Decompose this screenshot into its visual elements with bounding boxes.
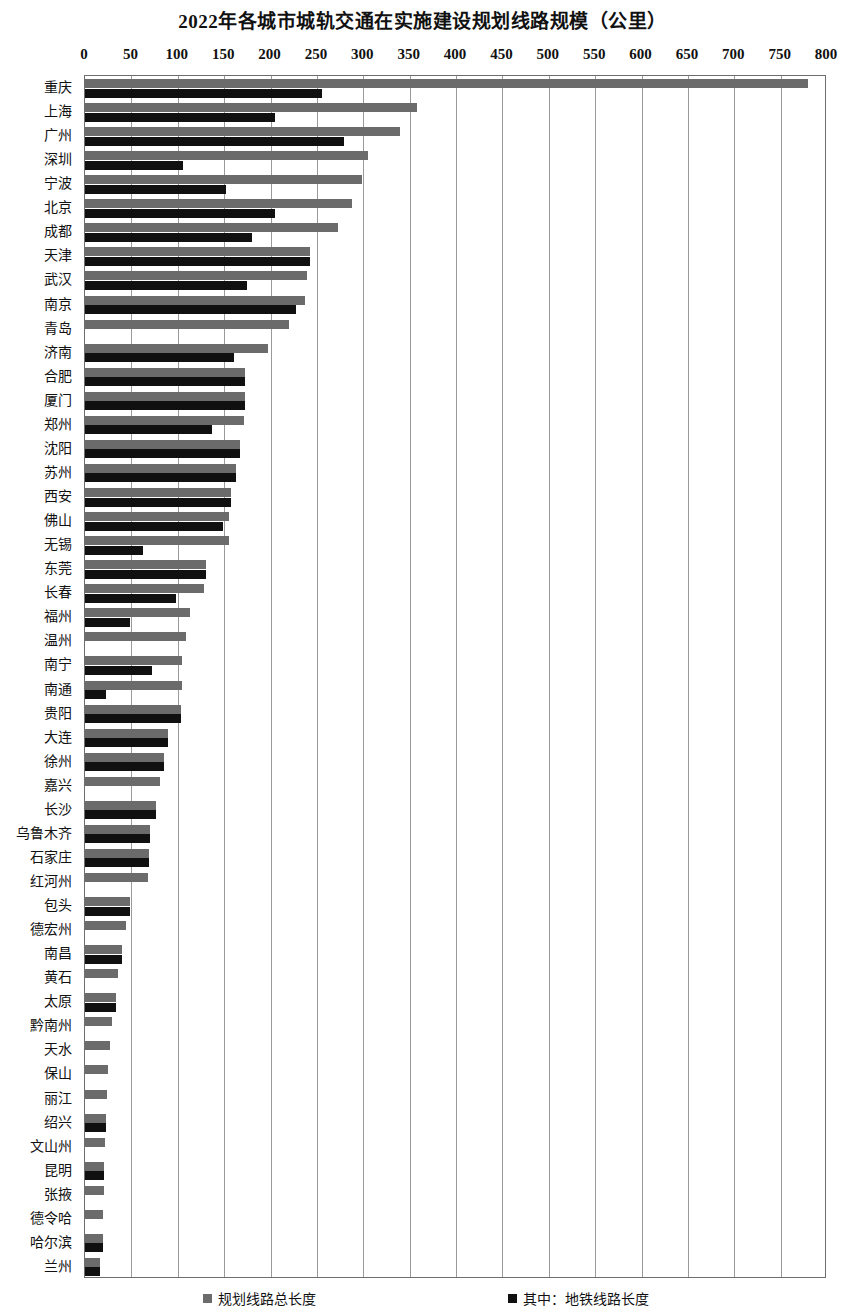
- bar-total-佛山: [85, 512, 229, 521]
- y-axis-label-厦门: 厦门: [44, 388, 72, 413]
- bar-total-太原: [85, 993, 116, 1002]
- bar-metro-福州: [85, 618, 130, 627]
- y-axis-label-太原: 太原: [44, 989, 72, 1014]
- bar-metro-天津: [85, 257, 310, 266]
- y-axis-label-昆明: 昆明: [44, 1158, 72, 1183]
- bar-metro-东莞: [85, 570, 206, 579]
- x-axis-tick-50: 50: [123, 46, 138, 63]
- bar-total-大连: [85, 729, 168, 738]
- legend-item-total[interactable]: 规划线路总长度: [203, 1288, 316, 1308]
- bar-total-广州: [85, 127, 400, 136]
- bar-metro-昆明: [85, 1171, 104, 1180]
- y-axis-label-徐州: 徐州: [44, 749, 72, 774]
- bar-metro-沈阳: [85, 449, 240, 458]
- y-axis-label-合肥: 合肥: [44, 364, 72, 389]
- bar-metro-苏州: [85, 473, 236, 482]
- x-axis-tick-450: 450: [490, 46, 513, 63]
- bar-total-南通: [85, 681, 182, 690]
- bar-total-西安: [85, 488, 231, 497]
- bar-total-厦门: [85, 392, 245, 401]
- bar-total-包头: [85, 897, 130, 906]
- x-axis-tick-800: 800: [815, 46, 838, 63]
- bar-total-黄石: [85, 969, 118, 978]
- bar-metro-济南: [85, 353, 234, 362]
- bar-metro-石家庄: [85, 858, 149, 867]
- bar-total-上海: [85, 103, 417, 112]
- bar-metro-长沙: [85, 810, 156, 819]
- y-axis-label-东莞: 东莞: [44, 556, 72, 581]
- bar-metro-南宁: [85, 666, 152, 675]
- bar-total-青岛: [85, 320, 289, 329]
- bar-metro-南京: [85, 305, 296, 314]
- x-axis-tick-200: 200: [258, 46, 281, 63]
- bar-total-天津: [85, 247, 310, 256]
- bar-metro-厦门: [85, 401, 245, 410]
- bar-metro-深圳: [85, 161, 183, 170]
- bar-total-石家庄: [85, 849, 149, 858]
- bar-total-红河州: [85, 873, 148, 882]
- y-axis-label-广州: 广州: [44, 123, 72, 148]
- bar-total-嘉兴: [85, 777, 160, 786]
- x-axis-tick-500: 500: [537, 46, 560, 63]
- bar-total-温州: [85, 632, 186, 641]
- bar-metro-包头: [85, 907, 130, 916]
- y-axis-label-石家庄: 石家庄: [30, 845, 72, 870]
- y-axis-label-哈尔滨: 哈尔滨: [30, 1230, 72, 1255]
- x-axis-tick-labels: 0501001502002503003504004505005506006507…: [0, 46, 845, 68]
- y-axis-label-贵阳: 贵阳: [44, 701, 72, 726]
- y-axis-label-济南: 济南: [44, 340, 72, 365]
- y-axis-label-天津: 天津: [44, 243, 72, 268]
- y-axis-label-青岛: 青岛: [44, 316, 72, 341]
- bar-metro-长春: [85, 594, 176, 603]
- y-axis-label-温州: 温州: [44, 628, 72, 653]
- bar-metro-乌鲁木齐: [85, 834, 150, 843]
- chart-legend: 规划线路总长度 其中：地铁线路长度: [0, 1288, 845, 1312]
- y-axis-label-文山州: 文山州: [30, 1134, 72, 1159]
- y-axis-label-乌鲁木齐: 乌鲁木齐: [16, 821, 72, 846]
- y-axis-label-北京: 北京: [44, 195, 72, 220]
- bar-metro-成都: [85, 233, 252, 242]
- y-axis-label-郑州: 郑州: [44, 412, 72, 437]
- legend-label-total: 规划线路总长度: [218, 1288, 316, 1308]
- y-axis-label-南昌: 南昌: [44, 941, 72, 966]
- bar-total-济南: [85, 344, 268, 353]
- bar-total-天水: [85, 1041, 110, 1050]
- bar-metro-徐州: [85, 762, 164, 771]
- y-axis-label-德宏州: 德宏州: [30, 917, 72, 942]
- legend-item-metro[interactable]: 其中：地铁线路长度: [508, 1288, 649, 1308]
- bar-metro-上海: [85, 113, 275, 122]
- bar-total-德令哈: [85, 1210, 103, 1219]
- y-axis-label-成都: 成都: [44, 219, 72, 244]
- bar-total-兰州: [85, 1258, 100, 1267]
- legend-swatch-metro-icon: [508, 1294, 517, 1303]
- bar-metro-南昌: [85, 955, 122, 964]
- bar-total-南宁: [85, 656, 182, 665]
- x-axis-tick-150: 150: [212, 46, 235, 63]
- bar-total-东莞: [85, 560, 206, 569]
- bar-metro-哈尔滨: [85, 1243, 103, 1252]
- y-axis-label-天水: 天水: [44, 1037, 72, 1062]
- x-axis-tick-0: 0: [80, 46, 88, 63]
- y-axis-label-黄石: 黄石: [44, 965, 72, 990]
- bar-total-北京: [85, 199, 352, 208]
- y-axis-label-大连: 大连: [44, 725, 72, 750]
- bar-total-张掖: [85, 1186, 104, 1195]
- bar-total-成都: [85, 223, 338, 232]
- x-axis-tick-400: 400: [444, 46, 467, 63]
- x-axis-tick-650: 650: [676, 46, 699, 63]
- x-axis-tick-300: 300: [351, 46, 374, 63]
- y-axis-label-沈阳: 沈阳: [44, 436, 72, 461]
- y-axis-label-重庆: 重庆: [44, 75, 72, 100]
- x-axis-tick-700: 700: [722, 46, 745, 63]
- x-axis-tick-250: 250: [305, 46, 328, 63]
- bar-metro-宁波: [85, 185, 226, 194]
- y-axis-label-保山: 保山: [44, 1061, 72, 1086]
- bar-total-合肥: [85, 368, 245, 377]
- bar-total-长沙: [85, 801, 156, 810]
- y-axis-label-丽江: 丽江: [44, 1086, 72, 1111]
- bars-layer: [85, 76, 825, 1277]
- bar-metro-大连: [85, 738, 168, 747]
- bar-metro-广州: [85, 137, 344, 146]
- legend-label-metro: 其中：地铁线路长度: [523, 1288, 649, 1308]
- y-axis-label-上海: 上海: [44, 99, 72, 124]
